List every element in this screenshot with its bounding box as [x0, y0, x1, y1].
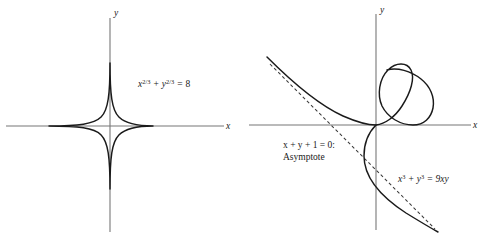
- folium-eq-exp1: 3: [402, 173, 405, 180]
- x-axis-label: x: [225, 121, 231, 131]
- y-axis-label: y: [113, 8, 119, 18]
- folium-eq-value: 9xy: [436, 174, 450, 184]
- folium-equation-label: x3+y3=9xy: [397, 173, 450, 185]
- folium-eq-operator: +: [408, 174, 413, 184]
- asymptote-equation-label: x + y + 1 = 0:: [283, 140, 335, 150]
- folium-plot: y x x + y + 1 = 0: Asymptote x3+y3=9xy: [243, 0, 487, 240]
- astroid-eq-equals: =: [177, 79, 182, 89]
- folium-eq-exp2: 3: [421, 173, 424, 180]
- astroid-eq-exp1: 2/3: [142, 78, 150, 85]
- astroid-plot: y x x2/3+y2/3=8: [0, 0, 243, 240]
- astroid-eq-value: 8: [186, 79, 191, 89]
- y-axis-label: y: [379, 5, 385, 15]
- folium-loop: [376, 64, 433, 125]
- astroid-eq-operator: +: [153, 79, 158, 89]
- asymptote-caption-label: Asymptote: [283, 152, 325, 162]
- astroid-equation-label: x2/3+y2/3=8: [137, 78, 191, 90]
- folium-eq-equals: =: [427, 174, 432, 184]
- x-axis-label: x: [472, 120, 478, 130]
- figure-container: y x x2/3+y2/3=8 y x x + y + 1 = 0: Asymp…: [0, 0, 487, 240]
- astroid-eq-exp2: 2/3: [166, 78, 174, 85]
